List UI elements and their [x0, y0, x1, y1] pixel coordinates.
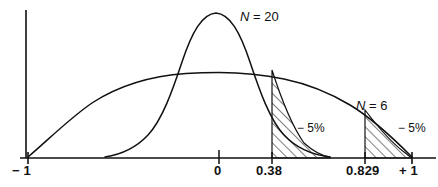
n6-curve-label: N = 6 [356, 98, 387, 113]
tail-region-n6-label: − 5% [398, 121, 426, 135]
n6-curve-label-symbol: N [356, 98, 365, 113]
n20-curve-label-symbol: N [240, 9, 249, 24]
n6-curve [28, 73, 412, 157]
n20-curve-label-value: 20 [264, 9, 278, 24]
x-tick-label-neg-one: − 1 [12, 163, 31, 178]
correlation-sampling-distribution-figure: − 1 0 0.38 0.829 + 1 N = 20 N = 6 − 5% −… [0, 0, 438, 187]
x-tick-label-zero: 0 [214, 163, 221, 178]
tail-region-n20 [272, 60, 332, 159]
x-tick-label-pos-one: + 1 [399, 163, 418, 178]
tail-region-n20-hatch [272, 60, 332, 159]
n6-curve-label-equals: = [369, 98, 377, 113]
n20-curve-label-equals: = [253, 9, 261, 24]
n20-curve-label: N = 20 [240, 9, 279, 24]
x-tick-label-crit-20: 0.38 [256, 163, 282, 178]
tail-region-n20-label: − 5% [297, 121, 325, 135]
chart-canvas [0, 0, 438, 187]
n6-curve-label-value: 6 [380, 98, 387, 113]
x-tick-label-crit-6: 0.829 [346, 163, 380, 178]
